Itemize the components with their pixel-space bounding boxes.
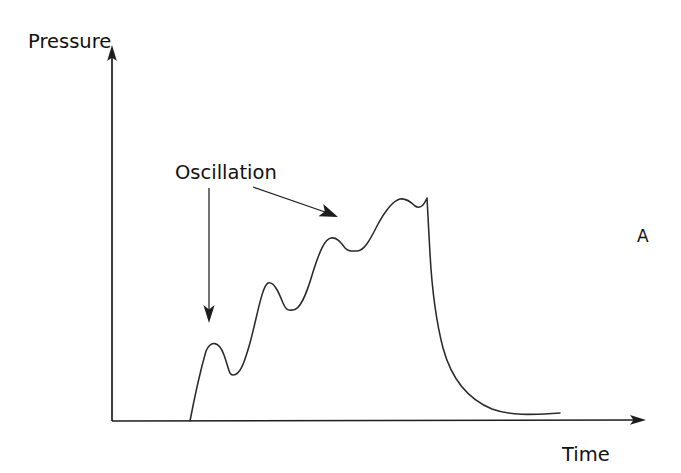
pressure-curve-path — [190, 198, 560, 421]
oscillation-arrow-diagonal — [253, 187, 338, 217]
oscillation-label: Oscillation — [175, 161, 277, 184]
figure-canvas: Pressure Time Oscillation A — [0, 0, 681, 473]
oscillation-arrow-diagonal-shaft — [253, 187, 325, 212]
x-axis-label: Time — [561, 443, 610, 466]
oscillation-arrow-vertical — [203, 188, 214, 323]
x-axis — [112, 415, 646, 425]
y-axis-label: Pressure — [28, 30, 111, 53]
pressure-trace-group — [190, 198, 560, 421]
y-axis — [107, 45, 117, 421]
pressure-time-diagram: Pressure Time Oscillation A — [0, 0, 681, 473]
panel-label: A — [637, 226, 649, 246]
